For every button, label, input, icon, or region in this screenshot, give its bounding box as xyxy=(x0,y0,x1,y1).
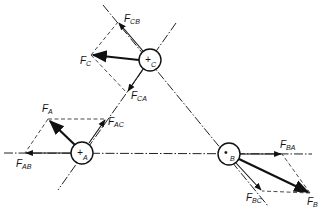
arrow-f-ac xyxy=(89,120,105,143)
label-f-bc: FBC xyxy=(246,192,263,204)
label-f-ac: FAC xyxy=(108,116,125,128)
body-c: + C xyxy=(139,49,161,71)
label-f-b: FB xyxy=(307,196,318,208)
axis-lines xyxy=(4,5,312,206)
body-b: • B xyxy=(218,143,240,165)
label-f-ab: FAB xyxy=(16,158,32,170)
body-b-label: B xyxy=(230,155,235,162)
label-f-ba: FBA xyxy=(280,139,296,151)
component-forces xyxy=(26,23,281,190)
force-diagram: + C + A • B FCB FC FCA FA FAC FAB FBA FB… xyxy=(0,0,321,211)
force-labels: FCB FC FCA FA FAC FAB FBA FBC FB xyxy=(16,13,318,208)
para-fa-fab xyxy=(25,119,48,153)
label-f-c: FC xyxy=(80,55,92,67)
label-f-a: FA xyxy=(42,103,53,115)
body-b-circle xyxy=(218,143,240,165)
arrow-f-ca xyxy=(128,69,143,91)
label-f-cb: FCB xyxy=(124,13,140,25)
body-a-label: A xyxy=(82,154,88,161)
para-fb-fbc xyxy=(262,191,310,193)
body-a: + A xyxy=(71,142,93,164)
parallelogram-lines xyxy=(25,22,310,193)
axis-c-a xyxy=(58,23,176,190)
force-diagram-svg: + C + A • B FCB FC FCA FA FAC FAB FBA FB… xyxy=(0,0,321,211)
body-b-marker: • xyxy=(224,147,228,158)
resultant-forces xyxy=(50,55,308,192)
para-fc-fca xyxy=(91,55,127,93)
arrow-f-cb xyxy=(119,23,143,51)
axis-c-b xyxy=(103,5,268,206)
label-f-ca: FCA xyxy=(131,90,147,102)
arrow-f-a xyxy=(50,121,75,145)
para-fc-fcb xyxy=(91,22,118,55)
arrow-f-c xyxy=(93,55,139,60)
